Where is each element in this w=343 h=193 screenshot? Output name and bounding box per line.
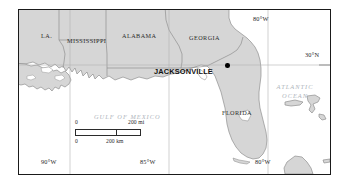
scale-bar: 0 200 mi 0 200 km: [75, 120, 155, 154]
scale-bar-rect: [75, 129, 141, 136]
map-geometry-canvas: [19, 10, 330, 174]
small-island-east: [323, 159, 330, 163]
map-figure: LA. MISSISSIPPI ALABAMA GEORGIA FLORIDA …: [0, 0, 343, 193]
scale-bar-km-divider: [116, 129, 117, 136]
scale-miles-zero-label: 0: [75, 120, 78, 126]
scale-miles-max-label: 200 mi: [128, 120, 144, 126]
map-frame: LA. MISSISSIPPI ALABAMA GEORGIA FLORIDA …: [18, 9, 331, 175]
city-marker-dot: [225, 63, 230, 68]
scale-km-max-label: 200 km: [106, 139, 124, 145]
scale-km-zero-label: 0: [75, 139, 78, 145]
